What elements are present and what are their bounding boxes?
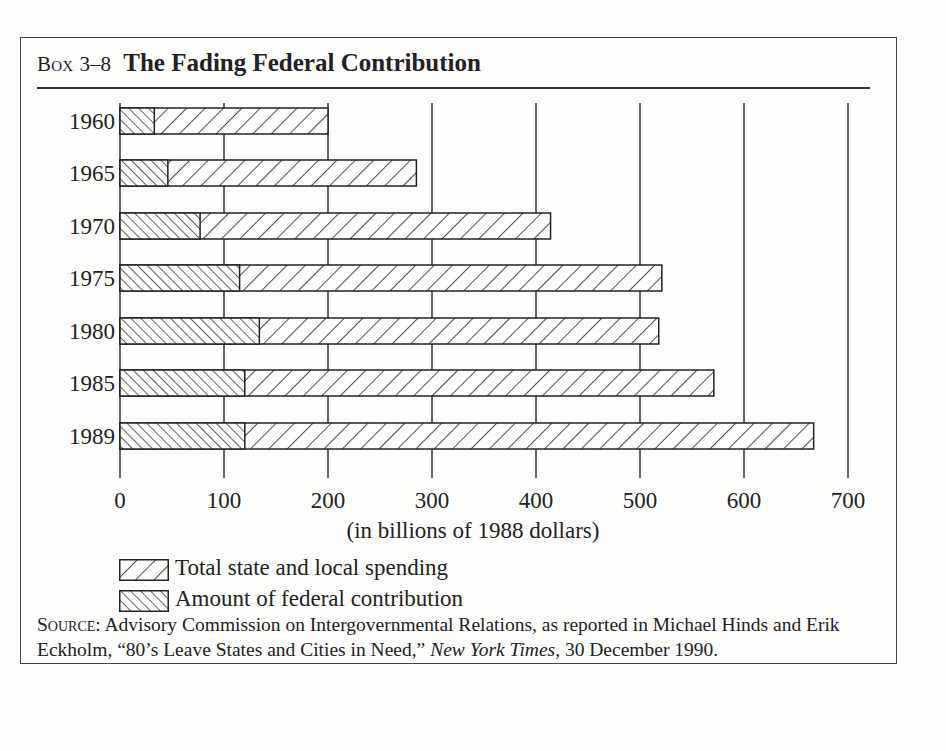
y-tick-label: 1975 (69, 266, 115, 291)
bar-group-1970 (120, 213, 551, 239)
legend-label: Amount of federal contribution (175, 586, 463, 612)
y-tick-label: 1970 (69, 214, 115, 239)
x-axis-title: (in billions of 1988 dollars) (0, 518, 946, 544)
x-tick-label: 600 (727, 488, 762, 513)
y-tick-label: 1965 (69, 161, 115, 186)
source-publication: New York Times (430, 639, 555, 660)
x-tick-label: 700 (831, 488, 866, 513)
source-note: Source: Advisory Commission on Intergove… (37, 612, 867, 662)
x-tick-label: 200 (311, 488, 346, 513)
legend-label: Total state and local spending (175, 555, 448, 581)
x-axis-labels: 0100200300400500600700 (114, 488, 865, 513)
bar-federal (120, 213, 200, 239)
bar-group-1985 (120, 370, 714, 396)
x-tick-label: 300 (415, 488, 450, 513)
x-tick-label: 100 (207, 488, 242, 513)
bar-group-1975 (120, 265, 662, 291)
x-tick-label: 0 (114, 488, 126, 513)
source-label: Source: (37, 614, 101, 635)
source-date: , 30 December 1990. (555, 639, 718, 660)
bar-federal (120, 160, 168, 186)
y-tick-label: 1980 (69, 319, 115, 344)
legend-swatch-back-diagonal (119, 559, 169, 581)
bar-federal (120, 265, 240, 291)
x-tick-label: 500 (623, 488, 658, 513)
bar-group-1960 (120, 108, 328, 134)
legend-swatch-forward-diagonal (119, 590, 169, 612)
y-axis-labels: 1960196519701975198019851989 (69, 109, 115, 449)
bar-group-1965 (120, 160, 416, 186)
bar-federal (120, 108, 154, 134)
bar-federal (120, 423, 245, 449)
bar-federal (120, 370, 245, 396)
x-tick-label: 400 (519, 488, 554, 513)
y-tick-label: 1960 (69, 109, 115, 134)
bar-group-1989 (120, 423, 814, 449)
y-tick-label: 1985 (69, 371, 115, 396)
bar-federal (120, 318, 259, 344)
bar-group-1980 (120, 318, 659, 344)
y-tick-label: 1989 (69, 424, 115, 449)
